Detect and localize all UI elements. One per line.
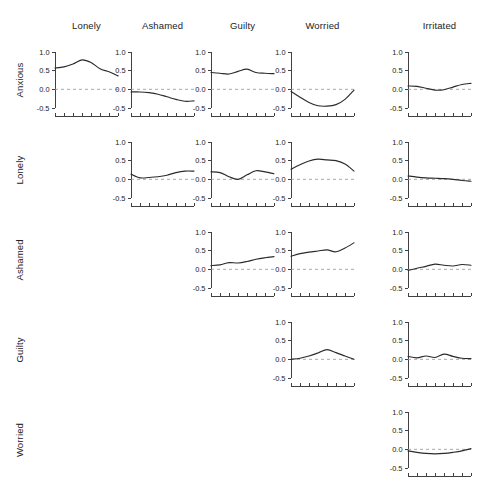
panel-lonely-worried: 1.00.50.0-0.5: [261, 134, 368, 216]
y-tick-label: 0.0: [115, 85, 125, 94]
y-tick-label: 1.0: [275, 48, 285, 57]
y-tick-label: 0.5: [195, 246, 205, 255]
y-tick-label: 1.0: [195, 228, 205, 237]
panel-ashamed-worried: 1.00.50.0-0.5: [261, 224, 368, 306]
y-tick-label: 1.0: [115, 48, 125, 57]
y-tick-label: 1.0: [195, 48, 205, 57]
y-tick-label: -0.5: [273, 104, 286, 113]
series-line: [291, 159, 354, 171]
y-tick-label: 0.5: [195, 66, 205, 75]
y-tick-label: -0.5: [390, 194, 403, 203]
y-tick-label: 0.5: [392, 156, 402, 165]
y-tick-label: 1.0: [115, 138, 125, 147]
column-header-worried: Worried: [285, 20, 360, 31]
y-tick-label: -0.5: [193, 194, 206, 203]
y-tick-label: 0.5: [115, 156, 125, 165]
panel-anxious-worried: 1.00.50.0-0.5: [261, 44, 368, 126]
y-tick-label: 1.0: [392, 138, 402, 147]
y-tick-label: 0.5: [275, 336, 285, 345]
y-tick-label: 0.5: [392, 336, 402, 345]
y-tick-label: 0.5: [195, 156, 205, 165]
y-tick-label: 0.0: [275, 265, 285, 274]
y-tick-label: 0.0: [195, 265, 205, 274]
y-tick-label: 1.0: [275, 138, 285, 147]
row-label-ashamed: Ashamed: [14, 228, 26, 292]
panel-anxious-irritated: 1.00.50.0-0.5: [378, 44, 485, 126]
y-tick-label: 1.0: [39, 48, 49, 57]
panel-guilty-worried: 1.00.50.0-0.5: [261, 314, 368, 396]
y-tick-label: -0.5: [390, 464, 403, 473]
y-tick-label: -0.5: [273, 374, 286, 383]
panel-lonely-irritated: 1.00.50.0-0.5: [378, 134, 485, 216]
y-tick-label: -0.5: [390, 104, 403, 113]
panel-ashamed-irritated: 1.00.50.0-0.5: [378, 224, 485, 306]
column-header-irritated: Irritated: [402, 20, 477, 31]
y-tick-label: 1.0: [392, 318, 402, 327]
y-tick-label: 0.5: [275, 66, 285, 75]
y-tick-label: 0.5: [39, 66, 49, 75]
correlation-panel-matrix: LonelyAshamedGuiltyWorriedIrritatedAnxio…: [0, 0, 492, 498]
y-tick-label: 0.5: [392, 246, 402, 255]
y-tick-label: 0.0: [275, 85, 285, 94]
y-tick-label: 1.0: [392, 408, 402, 417]
y-tick-label: 0.5: [392, 66, 402, 75]
y-tick-label: 0.5: [392, 426, 402, 435]
y-tick-label: 0.5: [275, 156, 285, 165]
y-tick-label: 0.5: [115, 66, 125, 75]
y-tick-label: 1.0: [195, 138, 205, 147]
y-tick-label: 1.0: [275, 318, 285, 327]
y-tick-label: 0.0: [392, 175, 402, 184]
series-line: [408, 176, 471, 181]
y-tick-label: -0.5: [390, 284, 403, 293]
column-header-ashamed: Ashamed: [125, 20, 200, 31]
column-header-guilty: Guilty: [205, 20, 280, 31]
y-tick-label: 0.0: [115, 175, 125, 184]
y-tick-label: 0.0: [39, 85, 49, 94]
y-tick-label: 0.0: [392, 355, 402, 364]
y-tick-label: 0.0: [392, 85, 402, 94]
panel-worried-irritated: 1.00.50.0-0.5: [378, 404, 485, 486]
y-tick-label: 1.0: [392, 48, 402, 57]
y-tick-label: 0.0: [392, 445, 402, 454]
y-tick-label: 0.0: [195, 85, 205, 94]
y-tick-label: 0.0: [195, 175, 205, 184]
y-tick-label: 1.0: [392, 228, 402, 237]
series-line: [291, 243, 354, 256]
y-tick-label: -0.5: [113, 104, 126, 113]
y-tick-label: -0.5: [390, 374, 403, 383]
row-label-guilty: Guilty: [14, 318, 26, 382]
series-line: [291, 90, 354, 106]
y-tick-label: 0.0: [392, 265, 402, 274]
y-tick-label: -0.5: [273, 284, 286, 293]
y-tick-label: -0.5: [273, 194, 286, 203]
y-tick-label: 0.0: [275, 175, 285, 184]
y-tick-label: -0.5: [193, 104, 206, 113]
row-label-lonely: Lonely: [14, 138, 26, 202]
y-tick-label: -0.5: [113, 194, 126, 203]
panel-guilty-irritated: 1.00.50.0-0.5: [378, 314, 485, 396]
y-tick-label: 0.5: [275, 246, 285, 255]
series-line: [408, 354, 471, 358]
y-tick-label: 1.0: [275, 228, 285, 237]
y-tick-label: -0.5: [37, 104, 50, 113]
column-header-lonely: Lonely: [49, 20, 124, 31]
row-label-worried: Worried: [14, 408, 26, 472]
y-tick-label: 0.0: [275, 355, 285, 364]
y-tick-label: -0.5: [193, 284, 206, 293]
series-line: [291, 350, 354, 360]
